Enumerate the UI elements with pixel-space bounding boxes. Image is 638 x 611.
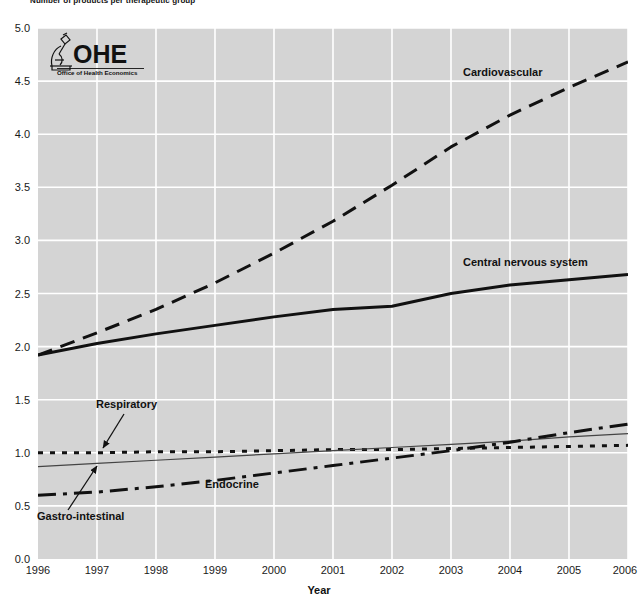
y-tick-label: 5.0 [0, 22, 30, 34]
chart-canvas [38, 28, 628, 559]
x-tick-label: 1999 [187, 564, 243, 576]
x-tick-label: 2004 [482, 564, 538, 576]
y-tick-label: 3.5 [0, 181, 30, 193]
series-label-cardiovascular: Cardiovascular [463, 66, 542, 78]
y-tick-label: 4.5 [0, 75, 30, 87]
series-label-endocrine: Endocrine [205, 478, 259, 490]
x-tick-label: 2001 [305, 564, 361, 576]
svg-text:Office of Health Economics: Office of Health Economics [57, 69, 138, 76]
chart-figure: Number of products per therapeutic group… [0, 0, 638, 611]
x-tick-label: 2003 [423, 564, 479, 576]
y-tick-label: 2.0 [0, 341, 30, 353]
y-tick-label: 1.5 [0, 394, 30, 406]
y-tick-label: 3.0 [0, 234, 30, 246]
ohe-logo: OHE Office of Health Economics [44, 32, 156, 76]
y-tick-label: 1.0 [0, 447, 30, 459]
microscope-icon: OHE Office of Health Economics [44, 32, 156, 76]
svg-text:OHE: OHE [73, 40, 127, 68]
series-label-gastro-intestinal: Gastro-intestinal [37, 510, 124, 522]
y-tick-label: 0.5 [0, 500, 30, 512]
x-tick-label: 2005 [541, 564, 597, 576]
x-tick-label: 1997 [69, 564, 125, 576]
y-tick-label: 2.5 [0, 288, 30, 300]
plot-area [38, 28, 628, 559]
x-tick-label: 2006 [597, 564, 638, 576]
chart-title: Number of products per therapeutic group [30, 0, 195, 5]
x-tick-label: 2000 [246, 564, 302, 576]
series-label-central-nervous-system: Central nervous system [463, 256, 588, 268]
x-tick-label: 2002 [364, 564, 420, 576]
x-axis-label: Year [0, 584, 638, 596]
gridlines [38, 28, 628, 559]
series-label-respiratory: Respiratory [96, 398, 157, 410]
x-tick-label: 1998 [128, 564, 184, 576]
x-tick-label: 1996 [10, 564, 66, 576]
y-tick-label: 4.0 [0, 128, 30, 140]
